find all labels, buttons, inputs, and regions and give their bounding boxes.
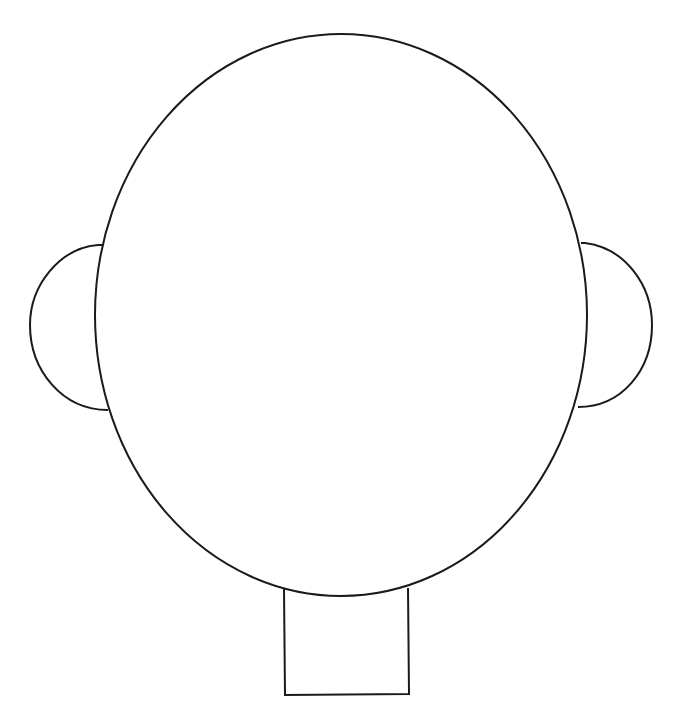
- head-outline-drawing: [0, 0, 683, 725]
- head: [95, 34, 587, 596]
- right-ear: [578, 243, 652, 407]
- neck: [284, 588, 409, 695]
- left-ear: [30, 245, 108, 410]
